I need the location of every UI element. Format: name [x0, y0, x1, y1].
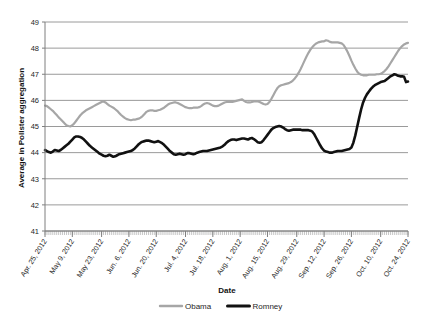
- y-axis-tick-label: 42: [31, 201, 39, 210]
- x-axis-minor-ticks: [45, 231, 408, 235]
- y-axis-title: Average in Pollster aggregation: [17, 68, 26, 188]
- line-chart: 414243444546474849 Apr. 25, 2012May 9, 2…: [0, 0, 434, 327]
- chart-container: 414243444546474849 Apr. 25, 2012May 9, 2…: [0, 0, 434, 327]
- y-axis-tick-label: 48: [31, 44, 39, 53]
- legend-label-obama: Obama: [185, 302, 212, 311]
- y-axis-tick-label: 44: [31, 148, 39, 157]
- legend-label-romney: Romney: [253, 302, 283, 311]
- y-axis-tick-label: 47: [31, 70, 39, 79]
- y-axis-tick-label: 43: [31, 175, 39, 184]
- y-axis-tick-label: 49: [31, 18, 39, 27]
- chart-background: [0, 0, 434, 327]
- y-axis-tick-label: 45: [31, 122, 39, 131]
- y-axis-tick-label: 41: [31, 227, 39, 236]
- x-axis-title: Date: [218, 286, 236, 295]
- y-axis-tick-label: 46: [31, 96, 39, 105]
